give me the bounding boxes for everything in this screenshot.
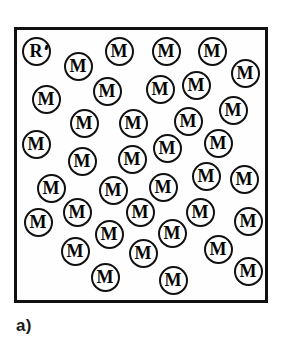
particle-label: M [70, 57, 87, 75]
particle-label: M [204, 42, 221, 60]
particle-label: M [236, 170, 253, 188]
monomer-particle: M [198, 37, 227, 66]
monomer-particle: M [61, 237, 90, 266]
particle-label: M [30, 213, 47, 231]
radical-electron-dot-icon [44, 44, 48, 50]
monomer-particle: M [182, 71, 211, 100]
particle-label: M [43, 179, 60, 197]
monomer-particle: M [105, 37, 134, 66]
monomer-particle: M [119, 109, 148, 138]
radical-particle: R [22, 37, 51, 66]
particle-label: M [97, 268, 114, 286]
monomer-particle: M [192, 162, 221, 191]
monomer-particle: M [158, 219, 187, 248]
particle-label: M [38, 90, 55, 108]
particle-label: M [74, 152, 91, 170]
monomer-particle: M [159, 266, 188, 295]
particle-label: M [69, 203, 86, 221]
monomer-particle: M [93, 77, 122, 106]
monomer-particle: M [231, 59, 260, 88]
monomer-particle: M [152, 37, 181, 66]
monomer-particle: M [174, 107, 203, 136]
particle-label: M [159, 139, 176, 157]
particle-label: M [28, 135, 45, 153]
particle-label: M [99, 82, 116, 100]
particle-label: M [67, 242, 84, 260]
particle-label: M [125, 114, 142, 132]
monomer-particle: M [64, 52, 93, 81]
particle-label: M [240, 212, 257, 230]
monomer-particle: M [230, 165, 259, 194]
particle-label: M [111, 42, 128, 60]
particle-label: M [165, 271, 182, 289]
monomer-particle: M [126, 198, 155, 227]
monomer-particle: M [219, 96, 248, 125]
particle-label: M [188, 76, 205, 94]
particle-label: M [225, 101, 242, 119]
monomer-particle: M [68, 147, 97, 176]
particle-label: R [30, 42, 43, 60]
particle-label: M [180, 112, 197, 130]
panel-caption: a) [16, 316, 32, 336]
reaction-vessel-box: RMMMMMMMMMMMMMMMMMMMMMMMMMMMMMMMMMMMM [14, 27, 268, 303]
monomer-particle: M [22, 130, 51, 159]
particle-label: M [155, 178, 172, 196]
monomer-particle: M [234, 257, 263, 286]
monomer-particle: M [129, 239, 158, 268]
monomer-particle: M [70, 109, 99, 138]
monomer-particle: M [95, 220, 124, 249]
particle-label: M [101, 225, 118, 243]
particle-label: M [237, 64, 254, 82]
particle-label: M [76, 114, 93, 132]
particle-layer: RMMMMMMMMMMMMMMMMMMMMMMMMMMMMMMMMMMMM [17, 30, 265, 300]
monomer-particle: M [153, 134, 182, 163]
monomer-particle: M [63, 198, 92, 227]
monomer-particle: M [32, 85, 61, 114]
particle-label: M [210, 134, 227, 152]
monomer-particle: M [204, 129, 233, 158]
monomer-particle: M [186, 198, 215, 227]
monomer-particle: M [234, 207, 263, 236]
monomer-particle: M [149, 173, 178, 202]
particle-label: M [192, 203, 209, 221]
particle-label: M [132, 203, 149, 221]
particle-label: M [164, 224, 181, 242]
monomer-particle: M [118, 145, 147, 174]
particle-label: M [124, 150, 141, 168]
particle-label: M [198, 167, 215, 185]
figure-panel-a: RMMMMMMMMMMMMMMMMMMMMMMMMMMMMMMMMMMMM a) [0, 0, 285, 350]
monomer-particle: M [24, 208, 53, 237]
monomer-particle: M [91, 263, 120, 292]
particle-label: M [240, 262, 257, 280]
particle-label: M [105, 181, 122, 199]
clipped-header-text [4, 0, 124, 5]
particle-label: M [135, 244, 152, 262]
monomer-particle: M [146, 75, 175, 104]
particle-label: M [152, 80, 169, 98]
monomer-particle: M [37, 174, 66, 203]
particle-label: M [158, 42, 175, 60]
particle-label: M [210, 240, 227, 258]
monomer-particle: M [204, 235, 233, 264]
monomer-particle: M [99, 176, 128, 205]
